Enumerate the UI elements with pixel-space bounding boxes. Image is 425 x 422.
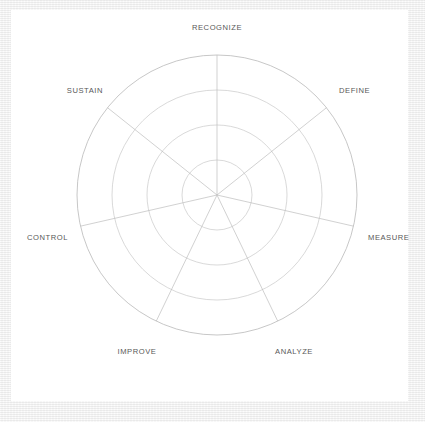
radar-chart-svg: RECOGNIZE DEFINE MEASURE ANALYZE IMPROVE… xyxy=(0,0,425,422)
axis-labels: RECOGNIZE DEFINE MEASURE ANALYZE IMPROVE… xyxy=(27,23,409,356)
spoke-control xyxy=(81,195,217,226)
axis-label-control: CONTROL xyxy=(27,233,68,242)
axis-label-sustain: SUSTAIN xyxy=(67,86,103,95)
spoke-measure xyxy=(217,195,353,226)
spoke-sustain xyxy=(108,108,217,195)
axis-label-define: DEFINE xyxy=(339,86,370,95)
spoke-analyze xyxy=(217,195,278,321)
page-root: RECOGNIZE DEFINE MEASURE ANALYZE IMPROVE… xyxy=(0,0,425,422)
axis-spokes xyxy=(81,55,354,321)
axis-label-improve: IMPROVE xyxy=(118,347,157,356)
spoke-improve xyxy=(156,195,217,321)
axis-label-measure: MEASURE xyxy=(368,233,409,242)
radar-chart: RECOGNIZE DEFINE MEASURE ANALYZE IMPROVE… xyxy=(0,0,425,422)
axis-label-recognize: RECOGNIZE xyxy=(192,23,242,32)
axis-label-analyze: ANALYZE xyxy=(275,347,313,356)
spoke-define xyxy=(217,108,326,195)
